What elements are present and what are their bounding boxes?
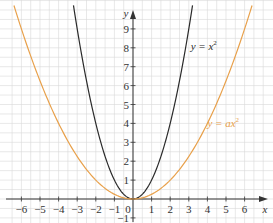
grid-lines: [0, 0, 273, 223]
y-tick-label: 5: [124, 99, 130, 111]
x-tick-label: 6: [242, 203, 248, 215]
y-tick-label: 8: [124, 42, 130, 54]
chart-container: −6−5−4−3−2−10123456−1123456789xy y = x2y…: [0, 0, 273, 223]
y-axis-arrow-icon: [130, 10, 136, 19]
y-tick-label: 1: [124, 174, 130, 186]
y-tick-label: 4: [124, 117, 130, 129]
x-tick-label: −3: [71, 203, 83, 215]
y-tick-label: 3: [124, 136, 130, 148]
x-tick-label: 5: [223, 203, 229, 215]
curve-label-a-x-squared: y = ax2: [206, 116, 239, 129]
curve-labels: y = x2y = ax2: [190, 39, 240, 129]
y-tick-label: 9: [124, 23, 130, 35]
x-tick-label: −6: [16, 203, 28, 215]
y-axis-label: y: [123, 7, 129, 19]
x-tick-label: −5: [34, 203, 46, 215]
tick-labels: −6−5−4−3−2−10123456−1123456789xy: [16, 7, 268, 223]
x-tick-label: −2: [90, 203, 102, 215]
y-tick-label: 6: [124, 80, 130, 92]
y-tick-label: 7: [124, 61, 130, 73]
x-tick-label: 1: [149, 203, 155, 215]
axes: [6, 10, 268, 222]
x-tick-label: 2: [167, 203, 173, 215]
x-axis-label: x: [262, 203, 268, 215]
y-tick-label: 2: [124, 155, 130, 167]
curve-label-x-squared: y = x2: [190, 39, 218, 52]
x-tick-label: 3: [186, 203, 192, 215]
plot-area: −6−5−4−3−2−10123456−1123456789xy y = x2y…: [0, 0, 273, 223]
x-tick-label: −4: [53, 203, 65, 215]
x-tick-label: 4: [205, 203, 211, 215]
y-tick-label: −1: [117, 212, 129, 223]
